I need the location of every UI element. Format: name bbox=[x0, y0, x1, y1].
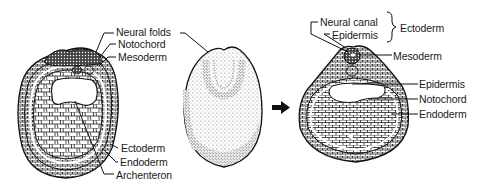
label-notochord: Notochord bbox=[118, 38, 166, 50]
label-endoderm-right: Endoderm bbox=[419, 108, 467, 120]
external-view-drawing bbox=[184, 47, 262, 167]
label-endoderm: Endoderm bbox=[120, 156, 168, 168]
label-epidermis-right: Epidermis bbox=[419, 78, 465, 90]
label-ectoderm: Ectoderm bbox=[121, 142, 165, 154]
label-epidermis-top: Epidermis bbox=[332, 29, 378, 41]
right-arrow-icon bbox=[272, 101, 290, 114]
label-neural-canal: Neural canal bbox=[320, 16, 378, 28]
neurulation-diagram: Neural folds Notochord Mesoderm Ectoderm… bbox=[0, 0, 493, 195]
early-cross-section-drawing bbox=[18, 48, 118, 178]
label-neural-folds: Neural folds bbox=[116, 26, 171, 38]
external-view-leader-line bbox=[180, 33, 208, 52]
later-cross-section-drawing bbox=[299, 46, 408, 162]
label-ectoderm-brace: Ectoderm bbox=[400, 22, 444, 34]
label-archenteron: Archenteron bbox=[116, 169, 172, 181]
label-notochord-right: Notochord bbox=[419, 93, 467, 105]
label-mesoderm-right: Mesoderm bbox=[393, 50, 442, 62]
label-mesoderm: Mesoderm bbox=[118, 51, 167, 63]
